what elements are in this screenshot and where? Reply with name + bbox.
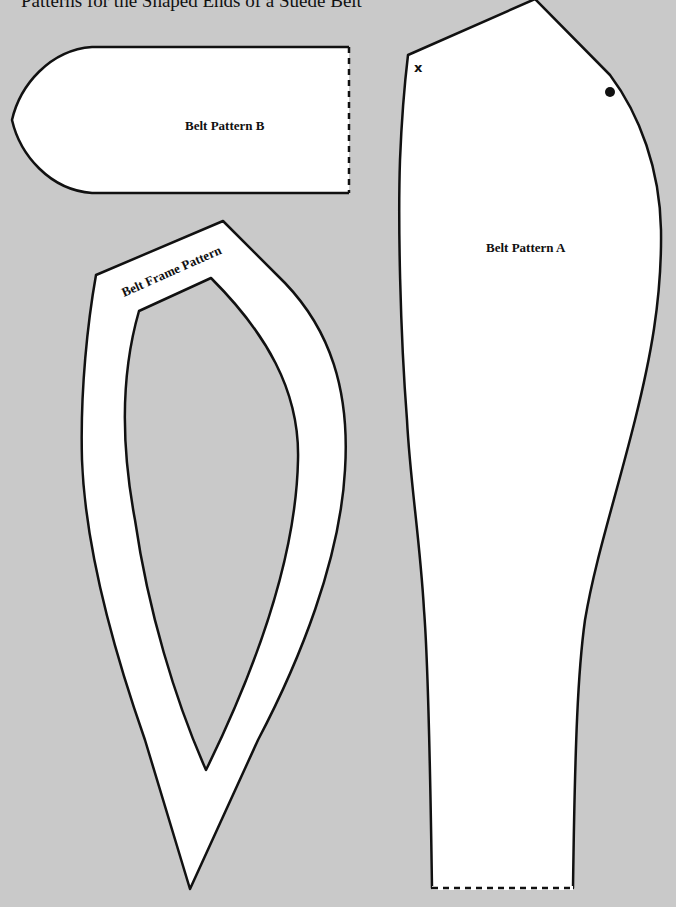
belt-pattern-b-shape: [12, 47, 349, 193]
dot-marker-icon: [605, 87, 615, 97]
belt-pattern-a-label: Belt Pattern A: [486, 240, 566, 255]
belt-pattern-b-label: Belt Pattern B: [185, 118, 265, 133]
x-marker-icon: x: [414, 60, 423, 75]
belt-frame-pattern: Belt Frame Pattern: [82, 221, 346, 889]
belt-pattern-b: Belt Pattern B: [12, 47, 349, 193]
belt-pattern-a-shape: [399, 0, 661, 888]
belt-pattern-a: x Belt Pattern A: [399, 0, 661, 888]
belt-frame-outer-shape: [82, 221, 346, 889]
